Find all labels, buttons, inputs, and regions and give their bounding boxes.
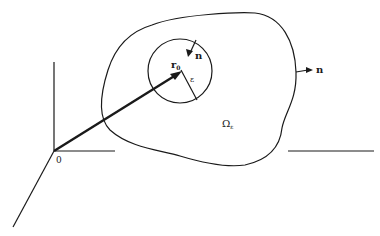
outer-normal-arrow bbox=[296, 67, 313, 73]
outer-normal-label: n bbox=[316, 64, 324, 75]
radius-line bbox=[181, 70, 197, 100]
inner-sphere bbox=[148, 39, 212, 103]
diagram-canvas: 0 r0 n n ε Ωε bbox=[0, 0, 380, 236]
x-axis bbox=[13, 151, 54, 227]
radius-label: ε bbox=[190, 75, 194, 84]
position-vector bbox=[54, 71, 182, 151]
inner-normal-label: n bbox=[195, 50, 203, 61]
position-vector-label: r0 bbox=[171, 59, 180, 71]
region-label: Ωε bbox=[222, 118, 233, 130]
region-boundary bbox=[102, 13, 297, 166]
origin-label: 0 bbox=[56, 155, 62, 165]
coordinate-axes bbox=[13, 62, 374, 227]
